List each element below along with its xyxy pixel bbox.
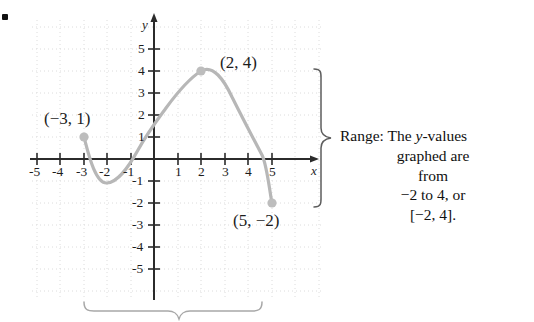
point-label-minus3-1: (−3, 1) [44,110,90,127]
x-tick-label-minus4: -4 [52,165,63,179]
x-tick-label-2: 2 [198,165,205,179]
x-tick-label-minus3: -3 [76,165,87,179]
y-tick-label-minus3: -3 [132,218,143,232]
range-line1-suffix: -values [422,127,467,144]
point-label-5-minus2: (5, −2) [233,212,279,229]
point-2-4 [196,66,205,75]
y-tick-label-minus2: -2 [132,196,143,210]
range-brace [314,69,331,207]
point-label-2-4: (2, 4) [220,54,257,71]
range-annotation-line2: graphed are [340,146,526,166]
range-line1-prefix: Range: The [340,127,415,144]
x-tick-label-5: 5 [269,165,276,179]
range-annotation-line3: from [340,166,526,186]
x-tick-label-1: 1 [175,165,182,179]
y-tick-label-1: 1 [138,130,145,144]
y-tick-label-2: 2 [138,108,145,122]
x-axis-label: x [311,164,317,177]
y-axis [151,13,158,300]
x-tick-label-minus2: -2 [99,165,110,179]
x-tick-label-4: 4 [245,165,252,179]
y-tick-label-5: 5 [138,42,145,56]
range-annotation-line4: −2 to 4, or [340,185,526,205]
y-tick-label-3: 3 [138,86,145,100]
domain-brace [84,302,262,319]
y-tick-label-minus4: -4 [132,240,143,254]
range-annotation-line5: [−2, 4]. [340,205,526,225]
y-tick-label-minus1: -1 [132,174,143,188]
x-axis [30,156,319,163]
point-minus3-1 [79,132,88,141]
x-tick-label-3: 3 [222,165,229,179]
point-5-minus2 [267,198,276,207]
y-tick-label-minus5: -5 [132,262,143,276]
x-tick-label-minus5: -5 [29,165,40,179]
y-tick-label-4: 4 [138,64,145,78]
y-axis-label: y [142,18,148,31]
range-annotation-line1: Range: The y-values [340,126,526,146]
range-annotation: Range: The y-values graphed are from −2 … [340,126,526,225]
figure-page: y x -5 -4 -3 -2 -1 1 2 3 4 5 5 4 3 2 1 -… [0,0,534,322]
